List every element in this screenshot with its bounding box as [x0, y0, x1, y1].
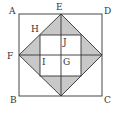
- label-G: G: [63, 57, 70, 67]
- label-I: I: [42, 57, 46, 67]
- label-D: D: [104, 6, 111, 16]
- label-B: B: [10, 95, 17, 105]
- label-A: A: [8, 6, 16, 16]
- geometry-figure: A E D H J F I G B C: [0, 0, 116, 118]
- inner-square: [40, 35, 81, 76]
- label-H: H: [31, 24, 39, 34]
- label-J: J: [62, 37, 67, 47]
- label-C: C: [104, 95, 111, 105]
- label-F: F: [7, 51, 13, 61]
- label-E: E: [56, 2, 63, 12]
